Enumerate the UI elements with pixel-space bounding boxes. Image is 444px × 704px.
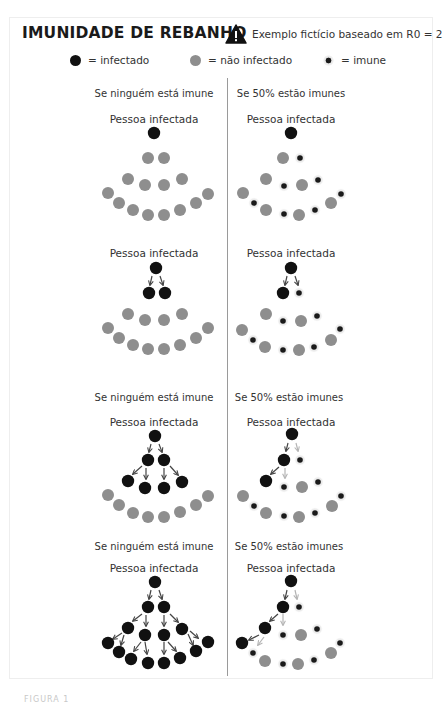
patient-zero-label: Pessoa infectada — [247, 416, 336, 428]
patient-zero-label: Pessoa infectada — [247, 562, 336, 574]
infected-dot-icon — [70, 55, 81, 66]
column-divider — [227, 78, 228, 676]
example-note: Exemplo fictício baseado em R0 = 2 — [252, 28, 442, 40]
figure-title: IMUNIDADE DE REBANHO — [22, 24, 247, 42]
patient-zero-label: Pessoa infectada — [110, 416, 199, 428]
column-heading-no-immunity: Se ninguém está imune — [95, 541, 214, 552]
patient-zero-label: Pessoa infectada — [110, 247, 199, 259]
column-heading-no-immunity: Se ninguém está imune — [95, 392, 214, 403]
patient-zero-label: Pessoa infectada — [110, 562, 199, 574]
legend-infected-label: = infectado — [88, 54, 149, 66]
patient-zero-label: Pessoa infectada — [247, 113, 336, 125]
figure-caption: FIGURA 1 — [24, 695, 69, 704]
figure-frame — [9, 17, 433, 679]
patient-zero-label: Pessoa infectada — [110, 113, 199, 125]
column-heading-50-immune: Se 50% estão imunes — [235, 392, 343, 403]
legend-not-infected-label: = não infectado — [208, 54, 292, 66]
not-infected-dot-icon — [190, 55, 201, 66]
immune-dot-icon — [323, 55, 334, 66]
patient-zero-label: Pessoa infectada — [247, 247, 336, 259]
legend-infected: = infectado — [70, 54, 149, 66]
column-heading-no-immunity: Se ninguém está imune — [95, 88, 214, 99]
legend-immune: = imune — [323, 54, 386, 66]
column-heading-50-immune: Se 50% estão imunes — [235, 541, 343, 552]
warning-triangle-icon — [225, 24, 247, 44]
legend-not-infected: = não infectado — [190, 54, 292, 66]
legend-immune-label: = imune — [341, 54, 386, 66]
column-heading-50-immune: Se 50% estão imunes — [237, 88, 345, 99]
